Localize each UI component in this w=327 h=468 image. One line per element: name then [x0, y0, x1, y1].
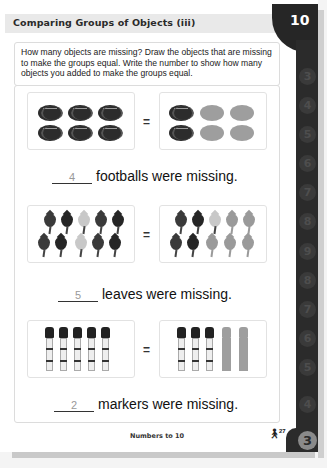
answer-field[interactable]: 4	[52, 171, 92, 184]
football-icon	[68, 105, 92, 121]
marker-icon	[177, 327, 186, 371]
marker-icon	[101, 327, 110, 371]
answer-line-footballs: 4footballs were missing.	[52, 168, 238, 184]
football-icon	[38, 125, 62, 141]
side-tab-circle: 6	[299, 330, 316, 347]
football-icon	[38, 105, 62, 121]
side-tab-circle: 8	[299, 213, 316, 230]
marker-icon	[59, 327, 68, 371]
side-tab-circle: 5	[299, 359, 316, 376]
leaf-icon	[61, 214, 73, 236]
leaf-icon	[170, 237, 182, 259]
football-icon	[169, 105, 193, 121]
drawn-marker-icon	[239, 327, 248, 371]
page-right-shadow	[318, 10, 324, 458]
answer-sentence: markers were missing.	[98, 396, 238, 412]
leaf-icon	[187, 237, 199, 259]
marker-icon	[191, 327, 200, 371]
side-tab-circle: 4	[299, 97, 316, 114]
chapter-number: 10	[290, 12, 309, 28]
drawn-leaf-icon	[224, 237, 236, 259]
side-tab-circle: 4	[299, 396, 316, 413]
football-icon	[98, 105, 122, 121]
football-group-right[interactable]	[159, 92, 267, 150]
marker-icon	[87, 327, 96, 371]
drawn-football-icon	[200, 105, 224, 121]
side-tab-circle: 7	[299, 184, 316, 201]
leaf-icon	[38, 237, 50, 259]
leaf-icon	[75, 237, 87, 259]
page-number: 27	[279, 428, 286, 434]
answer-field[interactable]: 2	[54, 399, 94, 412]
leaf-group-right[interactable]	[159, 205, 267, 263]
side-tab-circle: 5	[299, 126, 316, 143]
football-group-left	[27, 92, 135, 150]
marker-icon	[45, 327, 54, 371]
answer-line-markers: 2markers were missing.	[54, 396, 238, 412]
drawn-leaf-icon	[243, 214, 255, 236]
marker-group-right[interactable]	[159, 320, 267, 378]
drawn-football-icon	[230, 125, 254, 141]
marker-icon	[73, 327, 82, 371]
drawn-leaf-icon	[206, 237, 218, 259]
drawn-football-icon	[230, 105, 254, 121]
marker-group-left	[27, 320, 135, 378]
equals-sign: =	[143, 228, 150, 242]
equals-sign: =	[143, 343, 150, 357]
equals-sign: =	[143, 115, 150, 129]
answer-field[interactable]: 5	[58, 289, 98, 302]
title-bar: Comparing Groups of Objects (iii)	[5, 14, 280, 33]
drawn-leaf-icon	[242, 237, 254, 259]
answer-line-leaves: 5leaves were missing.	[58, 286, 232, 302]
footer-section-title: Numbers to 10	[130, 432, 184, 440]
drawn-leaf-icon	[226, 214, 238, 236]
football-icon	[98, 125, 122, 141]
leaf-icon	[109, 237, 121, 259]
leaf-icon	[55, 237, 67, 259]
football-icon	[169, 125, 193, 141]
side-tab-circle: 3	[299, 68, 316, 85]
drawn-marker-icon	[222, 327, 231, 371]
leaf-icon	[92, 237, 104, 259]
marker-icon	[205, 327, 214, 371]
instruction-box: How many objects are missing? Draw the o…	[14, 42, 280, 86]
leaf-group-left	[27, 205, 135, 263]
page-title: Comparing Groups of Objects (iii)	[13, 17, 195, 28]
side-tab-circle: 9	[299, 243, 316, 260]
side-tab-circle: 8	[299, 272, 316, 289]
leaf-icon	[44, 214, 56, 236]
side-tab-circle: 7	[299, 301, 316, 318]
side-tab-circle: 6	[299, 155, 316, 172]
drawn-football-icon	[200, 125, 224, 141]
football-icon	[68, 125, 92, 141]
answer-sentence: footballs were missing.	[96, 168, 238, 184]
answer-sentence: leaves were missing.	[102, 286, 232, 302]
side-tab-current: 3	[298, 431, 317, 450]
page-bottom-shadow	[12, 452, 315, 458]
instruction-text: How many objects are missing? Draw the o…	[21, 47, 277, 79]
